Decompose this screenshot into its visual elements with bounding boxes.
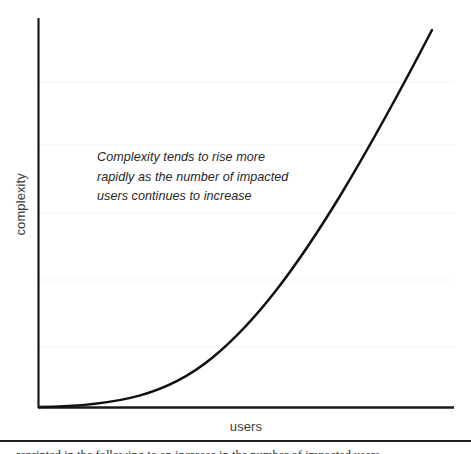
footer-caption-clipped: reprinted in the following to an increas… xyxy=(16,448,471,454)
annotation-line-2: rapidly as the number of impacted xyxy=(97,168,347,188)
complexity-curve xyxy=(39,30,432,407)
annotation-line-3: users continues to increase xyxy=(97,187,347,207)
x-axis-label: users xyxy=(38,419,454,434)
y-axis-label: complexity xyxy=(13,196,28,236)
footer-divider xyxy=(0,440,471,442)
chart-annotation: Complexity tends to rise more rapidly as… xyxy=(97,148,347,207)
gridlines xyxy=(38,82,454,347)
annotation-line-1: Complexity tends to rise more xyxy=(97,148,347,168)
complexity-vs-users-chart: complexity users Complexity tends to ris… xyxy=(0,0,471,454)
chart-canvas xyxy=(0,0,471,454)
